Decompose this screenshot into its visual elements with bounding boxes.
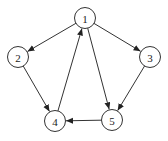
node-label: 5: [109, 115, 115, 127]
node-label: 4: [52, 116, 58, 128]
node-2: 2: [8, 47, 29, 68]
edge-layer: [23, 23, 144, 121]
edge-1-to-2: [28, 23, 76, 51]
node-layer: 12345: [8, 8, 161, 132]
edge-1-to-5: [88, 28, 109, 109]
edge-4-to-1: [58, 29, 82, 111]
node-label: 1: [82, 13, 88, 25]
edge-1-to-3: [94, 23, 141, 51]
node-3: 3: [140, 47, 161, 68]
edge-2-to-4: [23, 66, 49, 111]
edge-5-to-4: [66, 120, 102, 121]
node-1: 1: [75, 8, 96, 29]
node-label: 2: [15, 52, 21, 64]
node-5: 5: [102, 110, 123, 131]
node-label: 3: [147, 52, 153, 64]
node-4: 4: [45, 111, 66, 132]
edge-3-to-5: [118, 66, 145, 111]
directed-graph: 12345: [0, 0, 168, 141]
